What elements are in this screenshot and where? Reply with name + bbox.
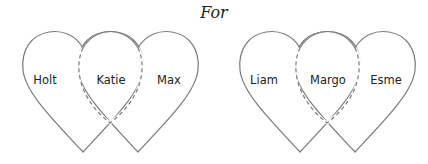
label-margo: Margo [310, 73, 346, 87]
label-holt: Holt [33, 73, 57, 87]
label-liam: Liam [250, 73, 278, 87]
label-esme: Esme [370, 73, 402, 87]
heart-pair-2: Liam Margo Esme [240, 32, 416, 152]
venn-hearts-diagram: Holt Katie Max Liam Margo Esme [0, 0, 428, 164]
label-katie: Katie [96, 73, 125, 87]
label-max: Max [157, 73, 181, 87]
heart-pair-1: Holt Katie Max [23, 32, 199, 152]
